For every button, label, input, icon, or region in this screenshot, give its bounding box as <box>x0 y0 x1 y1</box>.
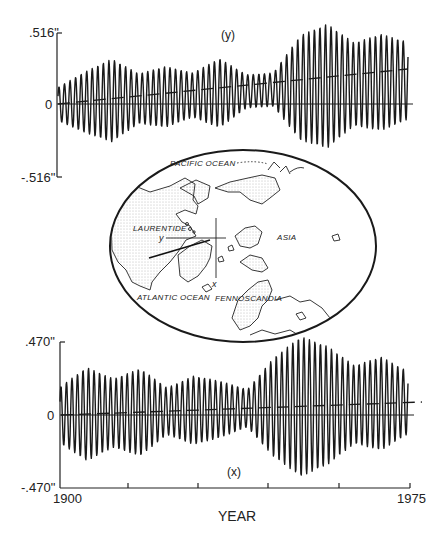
top-series-line <box>58 25 408 147</box>
top-y-zero-label: 0 <box>45 98 52 111</box>
arctic-map <box>110 150 376 342</box>
bottom-y-zero-label: 0 <box>47 409 54 422</box>
top-y-min-label: -.516" <box>21 171 55 184</box>
label-laurentide: LAURENTIDE <box>133 225 187 233</box>
top-plot-title: (y) <box>221 29 235 41</box>
label-fennoscandia: FENNOSCANDIA <box>215 295 282 303</box>
figure-canvas <box>0 0 442 542</box>
label-atlantic-ocean: ATLANTIC OCEAN <box>137 294 210 302</box>
bottom-y-min-label: -.470" <box>21 481 55 494</box>
bottom-plot-title: (x) <box>227 466 241 478</box>
x-start-label: 1900 <box>53 492 82 505</box>
bottom-y-max-label: .470" <box>25 335 55 348</box>
bottom-plot-x <box>60 338 422 488</box>
x-axis-title: YEAR <box>218 509 256 523</box>
label-asia: ASIA <box>277 234 296 242</box>
map-label-y: y <box>159 234 164 243</box>
top-y-max-label: .516" <box>29 26 59 39</box>
bottom-series-line <box>60 338 408 475</box>
map-label-x: x <box>212 280 217 289</box>
x-axis-ticks <box>128 483 410 488</box>
x-end-label: 1975 <box>397 492 426 505</box>
label-pacific-ocean: PACIFIC OCEAN <box>170 160 236 168</box>
